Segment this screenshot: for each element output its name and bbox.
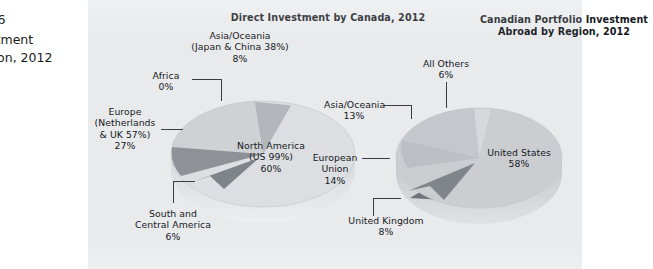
- pie-label-europe-left: Europe (Netherlands & UK 57%) 27%: [86, 106, 164, 152]
- pie-label-africa-left: Africa 0%: [138, 70, 194, 93]
- leader-south-central-left-h: [173, 181, 195, 182]
- leader-european-union-right: [362, 158, 390, 159]
- leader-united-kingdom-right-h: [373, 198, 401, 199]
- pie-label-asia-oceania-left: Asia/Oceania (Japan & China 38%) 8%: [170, 30, 310, 64]
- leader-europe-left: [161, 129, 183, 130]
- chart-title-direct-investment: Direct Investment by Canada, 2012: [218, 12, 438, 24]
- caption-figure-number: – 6: [0, 12, 6, 27]
- leader-asia-oceania-right-v: [411, 105, 412, 119]
- figure-caption: – 6 vestment egion, 2012: [0, 0, 88, 269]
- pie-label-all-others-right: All Others 6%: [404, 58, 488, 81]
- pie-label-european-union-right: European Union 14%: [310, 152, 360, 186]
- pie-label-south-central-america-left: South and Central America 6%: [113, 208, 233, 242]
- leader-asia-oceania-right: [384, 105, 412, 106]
- leader-all-others-right: [446, 82, 447, 108]
- pie-label-asia-oceania-right: Asia/Oceania 13%: [324, 99, 384, 122]
- caption-line-1: vestment: [0, 32, 33, 47]
- pie-label-united-states-right: United States 58%: [470, 147, 568, 170]
- leader-united-kingdom-right-v: [373, 198, 374, 216]
- leader-south-central-left-v: [173, 181, 174, 203]
- pie-label-united-kingdom-right: United Kingdom 8%: [338, 215, 434, 238]
- caption-line-2: egion, 2012: [0, 50, 52, 65]
- charts-panel: Direct Investment by Canada, 2012 Canadi…: [88, 0, 582, 269]
- pie-label-north-america-left: North America (US 99%) 60%: [218, 140, 324, 174]
- chart-title-portfolio-investment: Canadian Portfolio Investment Abroad by …: [460, 14, 653, 38]
- leader-africa-left: [192, 79, 222, 80]
- leader-africa-left-v: [221, 79, 222, 101]
